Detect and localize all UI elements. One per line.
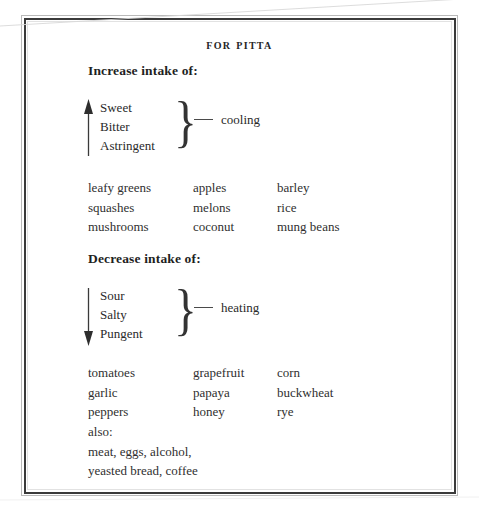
page-title: FOR PITTA: [0, 36, 479, 53]
food-item: mung beans: [277, 217, 339, 237]
taste-item: Sweet: [100, 98, 155, 117]
extras-item: meat, eggs, alcohol,: [88, 442, 198, 462]
effect-label-heating: heating: [221, 300, 259, 316]
food-column: apples melons coconut: [193, 178, 234, 237]
taste-item: Sour: [100, 286, 143, 305]
arrow-down-icon: [82, 286, 96, 348]
section-heading-increase: Increase intake of:: [88, 63, 198, 79]
connector-dash: [194, 307, 213, 308]
food-item: rye: [277, 402, 333, 422]
extras-list: also: meat, eggs, alcohol, yeasted bread…: [88, 422, 198, 481]
food-column: tomatoes garlic peppers: [88, 363, 135, 422]
taste-list-decrease: Sour Salty Pungent: [100, 286, 143, 343]
connector-dash: [194, 119, 213, 120]
food-column: corn buckwheat rye: [277, 363, 333, 422]
effect-label-cooling: cooling: [221, 112, 260, 128]
food-column: leafy greens squashes mushrooms: [88, 178, 151, 237]
food-item: buckwheat: [277, 383, 333, 403]
food-item: coconut: [193, 217, 234, 237]
food-column: barley rice mung beans: [277, 178, 339, 237]
food-item: garlic: [88, 383, 135, 403]
taste-item: Salty: [100, 305, 143, 324]
taste-item: Pungent: [100, 324, 143, 343]
food-item: honey: [193, 402, 244, 422]
extras-item: yeasted bread, coffee: [88, 461, 198, 481]
section-heading-decrease: Decrease intake of:: [88, 251, 201, 267]
arrow-up-icon: [82, 98, 96, 160]
food-item: leafy greens: [88, 178, 151, 198]
brace-glyph: }: [174, 91, 197, 153]
food-item: grapefruit: [193, 363, 244, 383]
taste-item: Bitter: [100, 117, 155, 136]
brace-glyph: }: [174, 279, 197, 341]
scanned-page: FOR PITTA Increase intake of: Sweet Bitt…: [0, 0, 479, 515]
food-item: corn: [277, 363, 333, 383]
food-item: melons: [193, 198, 234, 218]
food-item: mushrooms: [88, 217, 151, 237]
food-item: peppers: [88, 402, 135, 422]
food-item: papaya: [193, 383, 244, 403]
food-item: squashes: [88, 198, 151, 218]
taste-item: Astringent: [100, 136, 155, 155]
food-column: grapefruit papaya honey: [193, 363, 244, 422]
food-item: tomatoes: [88, 363, 135, 383]
food-item: apples: [193, 178, 234, 198]
taste-list-increase: Sweet Bitter Astringent: [100, 98, 155, 155]
page-content: FOR PITTA Increase intake of: Sweet Bitt…: [0, 0, 479, 515]
food-item: rice: [277, 198, 339, 218]
extras-label: also:: [88, 422, 198, 442]
food-item: barley: [277, 178, 339, 198]
